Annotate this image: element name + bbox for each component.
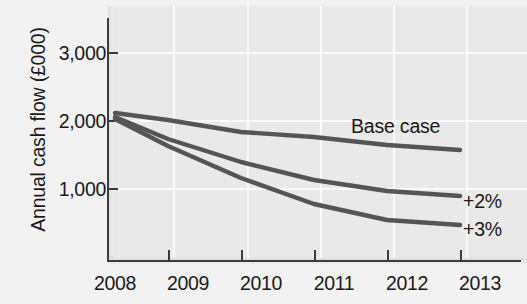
series-label-plus-3: +3% — [463, 218, 502, 241]
series-lines — [0, 0, 527, 304]
series-label-base-case: Base case — [351, 115, 440, 138]
x-tick-label-2013: 2013 — [435, 272, 525, 295]
series-label-plus-2: +2% — [463, 190, 502, 213]
chart-figure: Annual cash flow (£000) 3,000 2,000 1,00… — [0, 0, 527, 304]
